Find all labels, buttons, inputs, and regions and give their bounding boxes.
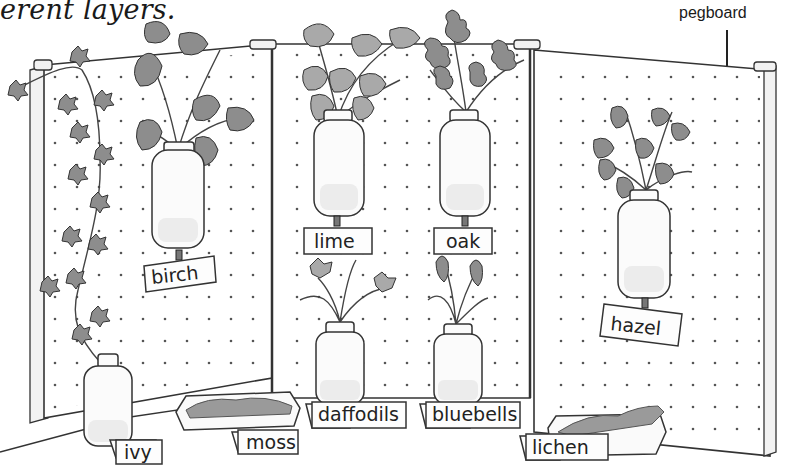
floor-line [0, 428, 90, 452]
tag-oak: oak [434, 228, 492, 254]
tag-daffodils: daffodils [306, 402, 406, 428]
moss-tray [176, 392, 300, 430]
tag-lichen: lichen [520, 434, 608, 460]
lime-jar [314, 110, 364, 226]
tag-lime-label: lime [314, 230, 355, 252]
tag-daffodils-label: daffodils [318, 403, 399, 425]
oak-jar [440, 110, 490, 226]
pegboard-illustration: erent layers. pegboard [0, 0, 785, 469]
daffodils-jar [316, 322, 364, 404]
center-panel [250, 40, 540, 398]
tag-lichen-label: lichen [532, 436, 589, 458]
tag-oak-label: oak [446, 230, 480, 252]
tag-ivy-label: ivy [124, 441, 152, 463]
bluebells-jar [434, 324, 482, 404]
ivy-jar [84, 354, 132, 446]
tag-ivy: ivy [110, 440, 162, 464]
tag-moss: moss [232, 430, 298, 454]
tag-bluebells: bluebells [420, 402, 520, 428]
birch-jar [152, 142, 204, 260]
tag-moss-label: moss [246, 431, 296, 453]
hazel-jar [618, 190, 670, 308]
tag-bluebells-label: bluebells [432, 403, 517, 425]
tag-lime: lime [304, 228, 372, 254]
